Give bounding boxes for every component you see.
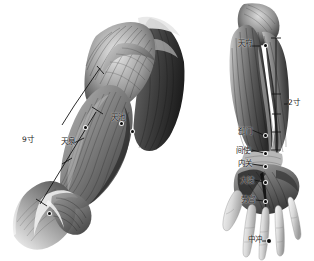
label-nine-cun: 9寸 bbox=[22, 136, 34, 144]
label-two-cun: 2寸 bbox=[288, 99, 300, 107]
label-tianfu: 天府 bbox=[238, 40, 252, 48]
right-forearm-hand-figure: 天府 2寸 郄门 间使 内关 大陵 劳宫 中冲 bbox=[214, 2, 314, 261]
left-arm-artwork bbox=[0, 0, 186, 261]
label-jianshi: 间使 bbox=[236, 147, 250, 155]
illustration-canvas: 9寸 天泉 天池 bbox=[0, 0, 314, 261]
label-laogong: 劳宫 bbox=[241, 196, 255, 204]
label-ximen: 郄门 bbox=[238, 128, 252, 136]
label-daling: 大陵 bbox=[240, 177, 254, 185]
acupoint-dot-zhongchong[interactable] bbox=[267, 239, 271, 243]
label-zhongchong: 中冲 bbox=[248, 236, 262, 244]
label-tianquan: 天泉 bbox=[61, 138, 75, 146]
right-forearm-artwork bbox=[214, 2, 314, 261]
label-tianchi: 天池 bbox=[111, 114, 125, 122]
left-arm-figure: 9寸 天泉 天池 bbox=[0, 0, 186, 261]
label-neiguan: 内关 bbox=[238, 160, 252, 168]
